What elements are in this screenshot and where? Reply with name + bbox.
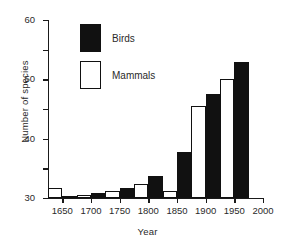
bar-birds-1900 <box>206 94 220 198</box>
x-tick-label: 1750 <box>109 206 130 216</box>
legend-swatch-birds-icon <box>80 24 101 52</box>
y-tick-label: 40 <box>24 134 35 144</box>
x-axis-line <box>48 198 263 199</box>
x-tick <box>62 198 63 203</box>
bar-birds-1750 <box>120 188 134 198</box>
x-tick-label: 1700 <box>80 206 101 216</box>
y-tick: 0 <box>43 198 48 199</box>
y-axis-line <box>48 20 49 198</box>
bar-birds-1850 <box>177 152 191 198</box>
y-tick-label: 60 <box>24 15 35 25</box>
x-tick-label: 1800 <box>138 206 159 216</box>
x-tick <box>263 198 264 203</box>
x-tick-label: 1900 <box>195 206 216 216</box>
bar-birds-1800 <box>148 176 162 198</box>
x-tick <box>177 198 178 203</box>
x-tick-label: 1850 <box>166 206 187 216</box>
legend-label-mammals: Mammals <box>112 70 155 81</box>
x-tick <box>120 198 121 203</box>
bar-mammals-1725 <box>105 191 119 198</box>
bar-birds-1950 <box>234 62 248 198</box>
x-axis-title: Year <box>0 226 295 237</box>
x-tick-label: 2000 <box>252 206 273 216</box>
x-tick <box>206 198 207 203</box>
bar-mammals-1675 <box>77 195 91 198</box>
bar-mammals-1625 <box>48 188 62 198</box>
legend-swatch-mammals-icon <box>80 61 101 89</box>
y-tick: 10 <box>43 168 48 169</box>
x-tick <box>234 198 235 203</box>
y-tick: 30 <box>43 109 48 110</box>
x-tick <box>91 198 92 203</box>
bar-mammals-1925 <box>220 79 234 198</box>
y-tick-label: 30 <box>24 193 35 203</box>
bar-chart-figure: Number of species 0102030405060 16501700… <box>0 0 295 251</box>
bar-mammals-1875 <box>191 106 205 198</box>
y-tick: 50 <box>43 50 48 51</box>
bar-mammals-1775 <box>134 184 148 198</box>
y-tick: 20 <box>43 139 48 140</box>
y-tick: 40 <box>43 79 48 80</box>
legend-label-birds: Birds <box>112 33 135 44</box>
bar-birds-1700 <box>91 193 105 198</box>
y-tick-label: 50 <box>24 75 35 85</box>
bar-birds-1650 <box>62 196 76 198</box>
x-tick-label: 1650 <box>52 206 73 216</box>
y-tick: 60 <box>43 20 48 21</box>
bar-mammals-1825 <box>163 191 177 198</box>
x-tick <box>148 198 149 203</box>
y-axis-title: Number of species <box>19 32 30 172</box>
x-tick-label: 1950 <box>224 206 245 216</box>
